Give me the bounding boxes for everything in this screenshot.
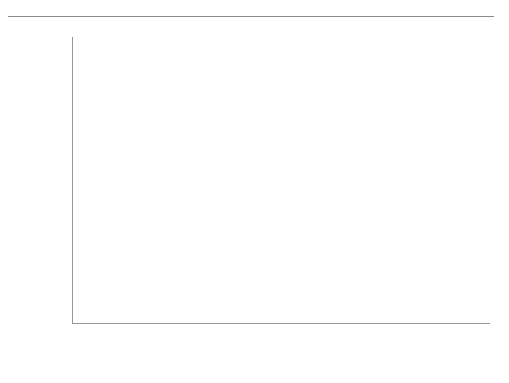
histogram-bars <box>73 37 491 323</box>
top-rule <box>8 16 494 17</box>
x-axis <box>72 323 490 324</box>
